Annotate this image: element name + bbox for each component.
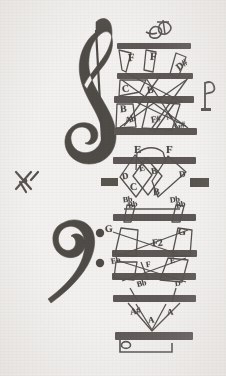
note-label: F#: [150, 114, 161, 124]
note-label: F2: [152, 238, 163, 249]
note-label: G#: [174, 120, 186, 130]
note-label: Eb: [110, 256, 121, 266]
note-label: Bb: [127, 200, 138, 210]
note-label: E: [134, 144, 141, 155]
note-label: C: [121, 84, 129, 95]
music-sheet-canvas: F F D# C B B Ab F# A G# E F E D B D C B …: [0, 0, 226, 376]
note-label: D: [121, 172, 129, 182]
note-label: F: [145, 261, 151, 270]
note-label: A: [167, 308, 174, 318]
note-label: D: [178, 170, 185, 180]
note-label: F: [166, 144, 172, 155]
note-label: D: [174, 280, 181, 289]
note-label: A: [165, 111, 173, 121]
note-label: G: [104, 224, 112, 235]
note-label: B: [153, 187, 160, 198]
note-label: C: [130, 182, 138, 193]
note-label: B: [120, 104, 127, 115]
note-label: Bb: [136, 279, 147, 289]
note-label: F: [128, 52, 135, 63]
note-label: Bb: [175, 200, 186, 210]
note-label: F: [150, 51, 157, 62]
note-label: B: [150, 167, 157, 177]
note-label: G: [178, 227, 186, 237]
note-label: A#: [129, 306, 141, 316]
note-label: B: [146, 85, 154, 96]
note-label: D#: [174, 57, 189, 72]
note-label-layer: F F D# C B B Ab F# A G# E F E D B D C B …: [0, 0, 226, 376]
note-label: Ab: [124, 114, 137, 126]
note-label: A: [148, 316, 155, 326]
note-label: E: [169, 257, 175, 266]
note-label: E: [138, 164, 145, 174]
